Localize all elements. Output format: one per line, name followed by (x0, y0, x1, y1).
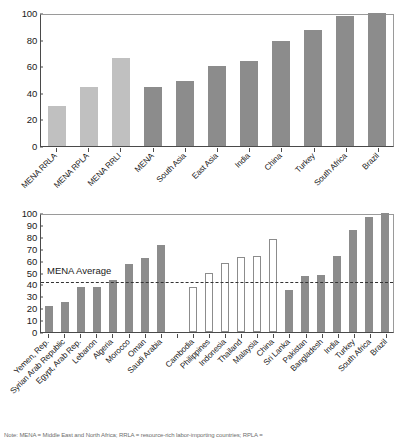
top-chart: 020406080100 MENA RRLAMENA RPLAMENA RRLI… (0, 0, 408, 200)
bar-slot (233, 15, 265, 146)
y-axis-tick-label: 70 (27, 245, 37, 255)
top-plot-area: 020406080100 MENA RRLAMENA RPLAMENA RRLI… (14, 14, 394, 148)
x-axis-tick-mark (314, 334, 330, 338)
bottom-plot-area: 0102030405060708090100 MENA Average Yeme… (14, 214, 394, 334)
bar (125, 264, 134, 332)
bar-slot (345, 215, 361, 332)
bar (368, 13, 386, 146)
bar (221, 263, 230, 332)
bar-slot (169, 215, 185, 332)
y-axis-tick-label: 80 (27, 36, 37, 46)
bar (141, 258, 150, 332)
bar (189, 287, 198, 332)
x-axis-tick-mark (378, 334, 394, 338)
bar-slot (329, 15, 361, 146)
x-axis-tick-mark (233, 148, 265, 152)
y-axis-tick-label: 30 (27, 293, 37, 303)
x-axis-tick-label-text: Brazil (369, 338, 389, 358)
x-axis-tick-label: MENA (136, 155, 158, 177)
x-axis-tick-label: Brazil (364, 155, 384, 175)
bar-slot (297, 215, 313, 332)
bar-slot (313, 215, 329, 332)
x-axis-tick-label: China (267, 155, 287, 175)
y-axis-tick-label: 10 (27, 316, 37, 326)
x-axis-tick-mark (346, 334, 362, 338)
bottom-chart: 0102030405060708090100 MENA Average Yeme… (0, 206, 408, 431)
x-axis-tick-mark (330, 334, 346, 338)
y-axis-tick-label: 40 (27, 281, 37, 291)
bar (240, 61, 258, 146)
top-bars (41, 15, 393, 146)
bar (208, 66, 226, 146)
x-axis-tick-label: South Asia (158, 155, 190, 187)
y-axis-tick-label: 100 (22, 9, 37, 19)
bar-slot (377, 215, 393, 332)
x-axis-tick-label-text: China (264, 152, 284, 172)
x-axis-tick-label-text: MENA RRLI (87, 152, 123, 188)
x-axis-tick-label-text: Turkey (294, 152, 317, 175)
bottom-plot: MENA Average (40, 214, 394, 333)
x-axis-tick-label-text: South Africa (313, 152, 349, 188)
bar (176, 81, 194, 146)
y-axis-tick-label: 0 (32, 142, 37, 152)
x-axis-tick-mark (201, 334, 217, 338)
bar (301, 276, 310, 332)
bar (381, 213, 390, 332)
x-axis-tick-mark (265, 148, 297, 152)
bar (285, 290, 294, 332)
x-axis-tick-label: MENA RRLI (90, 155, 126, 191)
x-axis-tick-mark (201, 148, 233, 152)
bar-slot (137, 215, 153, 332)
y-axis-tick-label: 80 (27, 233, 37, 243)
bar-slot (41, 15, 73, 146)
bar (48, 106, 66, 146)
bar (61, 302, 70, 332)
bar-slot (265, 215, 281, 332)
bar (157, 245, 166, 332)
x-axis-tick-mark (137, 148, 169, 152)
y-axis-tick-label: 20 (27, 304, 37, 314)
y-axis-tick-label: 60 (27, 257, 37, 267)
bar-slot (217, 215, 233, 332)
bar-slot (105, 15, 137, 146)
x-axis-tick-label-text: India (234, 152, 252, 170)
bar (237, 257, 246, 332)
y-axis-tick-label: 100 (22, 209, 37, 219)
bar-slot (169, 15, 201, 146)
x-axis-tick-mark (153, 334, 169, 338)
bar-slot (297, 15, 329, 146)
mena-average-line (41, 282, 393, 283)
y-axis-tick-label: 40 (27, 89, 37, 99)
mena-average-label: MENA Average (47, 266, 111, 276)
x-axis-tick-label-text: East Asia (191, 152, 220, 181)
bar-slot (329, 215, 345, 332)
x-axis-tick-label: India (237, 155, 255, 173)
footnote-text: Note: MENA = Middle East and North Afric… (4, 432, 263, 438)
bar (80, 87, 98, 146)
bar-slot (121, 215, 137, 332)
x-axis-tick-mark (185, 334, 201, 338)
top-y-axis: 020406080100 (14, 14, 40, 148)
bar-slot (249, 215, 265, 332)
bar-slot (361, 15, 393, 146)
x-axis-tick-mark (104, 148, 136, 152)
x-axis-tick-label: East Asia (194, 155, 223, 184)
bar (144, 87, 162, 146)
bar-slot (233, 215, 249, 332)
bar-slot (201, 15, 233, 146)
bar (253, 256, 262, 332)
bar-slot (201, 215, 217, 332)
x-axis-tick-mark (120, 334, 136, 338)
bar (112, 58, 130, 146)
bar-slot (137, 15, 169, 146)
bar-slot (281, 215, 297, 332)
x-axis-tick-label-text: MENA (133, 152, 155, 174)
bar (304, 30, 322, 146)
bar-slot (265, 15, 297, 146)
x-axis-tick-label: South Africa (316, 155, 352, 191)
bar (45, 306, 54, 332)
x-axis-tick-mark (330, 148, 362, 152)
x-axis-tick-mark (298, 334, 314, 338)
bottom-y-axis: 0102030405060708090100 (14, 214, 40, 334)
x-axis-tick-mark (362, 334, 378, 338)
